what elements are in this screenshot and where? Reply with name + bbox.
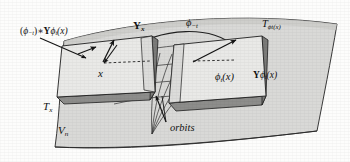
figure-manifold-tangent-planes: (ϕ−t)∗Yϕt(x) Yx ϕ−t Tϕt(x) x ϕt(x) Yϕt(x… bbox=[0, 0, 350, 162]
label-manifold-Vn: Vn bbox=[58, 125, 68, 138]
label-image-point-phitx: ϕt(x) bbox=[215, 72, 234, 83]
label-vector-field-Yx: Yx bbox=[133, 20, 145, 33]
label-vector-field-at-phitx: Yϕt(x) bbox=[253, 71, 277, 81]
diagram-canvas bbox=[0, 0, 350, 162]
label-base-point-x: x bbox=[98, 68, 103, 79]
label-pushforward-vector: (ϕ−t)∗Yϕt(x) bbox=[20, 27, 68, 37]
label-tangent-space-at-phitx: Tϕt(x) bbox=[262, 19, 281, 30]
label-orbits: orbits bbox=[170, 123, 195, 134]
label-flow-phi-minus-t: ϕ−t bbox=[186, 18, 198, 29]
label-tangent-space-at-x: Tx bbox=[43, 101, 52, 114]
left-tangent-plane bbox=[57, 36, 158, 104]
